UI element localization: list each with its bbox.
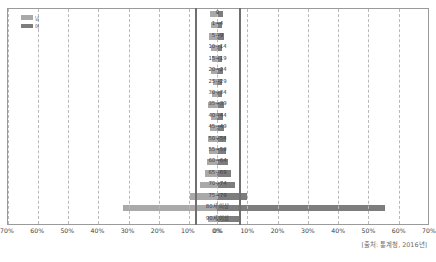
- x-tick-label: 60%: [392, 227, 406, 234]
- gridline: [247, 9, 248, 224]
- x-tick-label: 50%: [60, 227, 74, 234]
- bar-row: [217, 169, 428, 178]
- x-tick-label: 20%: [151, 227, 165, 234]
- x-tick-label: 20%: [271, 227, 285, 234]
- bar-row: [8, 192, 218, 201]
- gridline: [68, 9, 69, 224]
- right-axis-spine: [239, 8, 241, 225]
- age-group-label: 15~19: [196, 54, 239, 63]
- right-plot-panel: [217, 8, 429, 225]
- bar-row: [8, 32, 218, 41]
- x-tick-label: 50%: [362, 227, 376, 234]
- left-x-axis-ticks: 70%60%50%40%30%20%10%0%: [7, 227, 218, 239]
- bar-row: [217, 203, 428, 212]
- age-group-label: 45~49: [196, 122, 239, 131]
- age-group-label: 25~29: [196, 77, 239, 86]
- bar-row: [217, 78, 428, 87]
- bar-female: [217, 205, 385, 211]
- x-tick-label: 30%: [121, 227, 135, 234]
- bar-row: [8, 169, 218, 178]
- gridline: [399, 9, 400, 224]
- bar-row: [217, 215, 428, 224]
- age-group-label: 20~24: [196, 65, 239, 74]
- age-group-label: 75~79: [196, 191, 239, 200]
- bar-row: [217, 112, 428, 121]
- gridline: [8, 9, 9, 224]
- bar-row: [8, 157, 218, 166]
- gridline: [308, 9, 309, 224]
- bar-row: [8, 100, 218, 109]
- right-plot-area: [217, 9, 428, 224]
- gridline: [368, 9, 369, 224]
- bar-row: [217, 66, 428, 75]
- left-plot-panel: [7, 8, 218, 225]
- x-tick-label: 0%: [212, 227, 222, 234]
- bar-row: [8, 135, 218, 144]
- bar-row: [217, 20, 428, 29]
- age-group-label: 55~59: [196, 145, 239, 154]
- bar-row: [8, 43, 218, 52]
- gridline: [278, 9, 279, 224]
- population-pyramid-chart: 01~45~910~1415~1920~2425~2930~3435~3940~…: [0, 0, 436, 262]
- bar-row: [217, 180, 428, 189]
- legend-item-female: 여: [21, 23, 61, 30]
- bar-row: [8, 180, 218, 189]
- left-bar-rows: [8, 9, 218, 224]
- bar-row: [217, 32, 428, 41]
- right-bar-rows: [217, 9, 428, 224]
- x-tick-label: 10%: [240, 227, 254, 234]
- x-tick-label: 70%: [0, 227, 14, 234]
- age-group-label: 60~64: [196, 156, 239, 165]
- age-group-label: 65~69: [196, 168, 239, 177]
- bar-row: [8, 55, 218, 64]
- x-tick-label: 10%: [181, 227, 195, 234]
- age-group-label: 30~34: [196, 88, 239, 97]
- bar-row: [8, 215, 218, 224]
- bar-row: [217, 146, 428, 155]
- bar-row: [8, 123, 218, 132]
- x-tick-label: 70%: [422, 227, 436, 234]
- chart-legend: 남 여: [21, 14, 61, 31]
- bar-row: [217, 55, 428, 64]
- gridline: [338, 9, 339, 224]
- bar-row: [217, 157, 428, 166]
- gridline: [129, 9, 130, 224]
- age-group-label: 1~4: [196, 19, 239, 28]
- bar-row: [217, 9, 428, 18]
- age-group-label: 40~44: [196, 111, 239, 120]
- bar-row: [8, 203, 218, 212]
- age-group-label: 5~9: [196, 31, 239, 40]
- age-group-label: 80세 이상: [196, 202, 239, 211]
- bar-row: [217, 43, 428, 52]
- bar-row: [217, 123, 428, 132]
- age-group-label: 0: [196, 8, 239, 17]
- bar-row: [217, 135, 428, 144]
- bar-row: [217, 89, 428, 98]
- bar-row: [8, 89, 218, 98]
- bar-row: [8, 112, 218, 121]
- right-x-axis-ticks: 0%10%20%30%40%50%60%70%: [217, 227, 429, 239]
- legend-swatch-male: [21, 15, 33, 19]
- age-group-label: 50~54: [196, 134, 239, 143]
- bar-row: [8, 146, 218, 155]
- age-group-axis: 01~45~910~1415~1920~2425~2930~3435~3940~…: [196, 8, 239, 225]
- bar-row: [8, 78, 218, 87]
- legend-item-male: 남: [21, 14, 61, 21]
- x-tick-label: 40%: [91, 227, 105, 234]
- x-tick-label: 30%: [301, 227, 315, 234]
- left-plot-area: [8, 9, 218, 224]
- gridline: [98, 9, 99, 224]
- bar-row: [8, 66, 218, 75]
- legend-label-male: 남: [35, 15, 39, 21]
- gridline: [159, 9, 160, 224]
- source-note: [출처: 통계청, 2016년]: [362, 240, 428, 249]
- legend-label-female: 여: [35, 23, 39, 29]
- bar-row: [217, 100, 428, 109]
- x-tick-label: 40%: [331, 227, 345, 234]
- gridline: [38, 9, 39, 224]
- x-tick-label: 60%: [30, 227, 44, 234]
- gridline: [189, 9, 190, 224]
- legend-swatch-female: [21, 24, 33, 28]
- age-group-label: 10~14: [196, 42, 239, 51]
- age-group-label: 35~39: [196, 99, 239, 108]
